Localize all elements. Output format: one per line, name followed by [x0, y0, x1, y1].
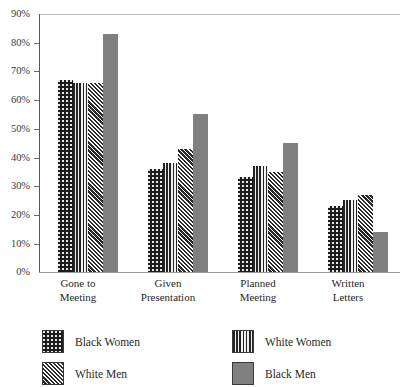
y-tick-label-30: 30% — [0, 181, 30, 192]
x-axis-label-line-1: Planned — [213, 277, 303, 291]
x-axis-label-line-1: Written — [303, 277, 393, 291]
bar-white-women-2 — [163, 163, 178, 272]
y-tick-label-70: 70% — [0, 66, 30, 77]
bar-white-men-3 — [268, 172, 283, 272]
y-tick-label-50: 50% — [0, 124, 30, 135]
y-tick-label-90: 90% — [0, 9, 30, 20]
bar-chart-figure: 90% 80% 70% 60% 50% 40% 30% 20% 10% 0% — [0, 0, 402, 387]
y-tick-label-40: 40% — [0, 153, 30, 164]
bar-black-women-1 — [58, 80, 73, 272]
bar-white-women-1 — [73, 83, 88, 272]
bar-black-men-4 — [373, 232, 388, 272]
legend-label-black-women: Black Women — [75, 336, 140, 348]
clipped-title-fragment — [218, 0, 226, 4]
bar-group-given-presentation — [148, 14, 214, 272]
x-axis-label-gone-to-meeting: Gone to Meeting — [33, 277, 123, 304]
bar-white-women-3 — [253, 166, 268, 272]
x-axis-label-line-1: Gone to — [33, 277, 123, 291]
x-axis-line — [39, 272, 400, 273]
legend-swatch-diagonal-hatch-icon — [42, 362, 64, 385]
x-axis-label-line-2: Letters — [303, 291, 393, 305]
y-tick-label-10: 10% — [0, 239, 30, 250]
legend-label-white-men: White Men — [75, 368, 127, 380]
bar-black-women-2 — [148, 169, 163, 272]
chart-legend: Black Women White Women White Men Black … — [42, 330, 392, 386]
x-axis-label-line-2: Meeting — [213, 291, 303, 305]
x-axis-label-line-2: Meeting — [33, 291, 123, 305]
bar-group-written-letters — [328, 14, 394, 272]
bar-black-women-4 — [328, 206, 343, 272]
bar-white-women-4 — [343, 200, 358, 272]
bar-black-men-3 — [283, 143, 298, 272]
y-tick-label-80: 80% — [0, 38, 30, 49]
x-axis-label-line-2: Presentation — [123, 291, 213, 305]
legend-swatch-dots-icon — [42, 330, 64, 353]
bar-black-men-2 — [193, 114, 208, 272]
legend-swatch-solid-gray-icon — [232, 362, 254, 385]
x-axis-label-given-presentation: Given Presentation — [123, 277, 213, 304]
bar-white-men-2 — [178, 149, 193, 272]
y-tick-label-60: 60% — [0, 95, 30, 106]
bar-group-gone-to-meeting — [58, 14, 124, 272]
y-tick-label-20: 20% — [0, 210, 30, 221]
bar-black-women-3 — [238, 177, 253, 272]
plot-area — [40, 14, 400, 272]
legend-label-black-men: Black Men — [265, 368, 316, 380]
y-tick-label-0: 0% — [0, 267, 30, 278]
bar-white-men-4 — [358, 195, 373, 272]
bar-black-men-1 — [103, 34, 118, 272]
legend-label-white-women: White Women — [265, 336, 331, 348]
x-axis-label-planned-meeting: Planned Meeting — [213, 277, 303, 304]
bar-group-planned-meeting — [238, 14, 304, 272]
x-axis-label-line-1: Given — [123, 277, 213, 291]
legend-swatch-vertical-stripes-icon — [232, 330, 254, 353]
x-axis-label-written-letters: Written Letters — [303, 277, 393, 304]
bar-white-men-1 — [88, 83, 103, 272]
